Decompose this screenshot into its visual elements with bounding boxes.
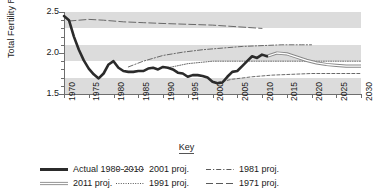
y-tick-label: 2.0 xyxy=(35,48,59,57)
y-axis-title: Total Fertility Rate xyxy=(6,0,20,68)
series-line xyxy=(217,74,361,83)
legend-label: 1991 proj. xyxy=(149,178,189,188)
legend-item[interactable]: Actual 1980-2010 xyxy=(40,164,116,174)
series-line-2011-proj-inner xyxy=(267,53,361,66)
y-tick-label: 1.5 xyxy=(35,89,59,98)
legend-item[interactable]: 1971 proj. xyxy=(206,178,294,188)
legend-label: 1971 proj. xyxy=(239,178,279,188)
legend-item[interactable]: 2011 proj. xyxy=(40,178,116,188)
dashed-swatch xyxy=(116,165,144,174)
legend-item[interactable]: 1981 proj. xyxy=(206,164,294,174)
legend-label: 2011 proj. xyxy=(73,178,112,188)
legend-items: Actual 1980-20102001 proj.1981 proj.2011… xyxy=(40,162,370,190)
key-title-text: Key xyxy=(179,142,195,154)
dotted-swatch xyxy=(116,179,144,188)
legend-item[interactable]: 2001 proj. xyxy=(116,164,206,174)
fertility-rate-chart: Total Fertility Rate 2.52.01.5 197019751… xyxy=(0,0,373,196)
legend-item[interactable]: 1991 proj. xyxy=(116,178,206,188)
series-line xyxy=(64,16,267,83)
y-tick-label: 2.5 xyxy=(35,7,59,16)
series-lines xyxy=(64,12,361,95)
legend-label: 1981 proj. xyxy=(239,164,279,174)
key-title: Key xyxy=(0,142,373,152)
dash-dot-swatch xyxy=(206,165,234,174)
long-dash-swatch xyxy=(206,179,234,188)
series-line xyxy=(128,45,311,67)
series-line-2011-proj-outer xyxy=(267,53,361,66)
x-tick xyxy=(361,94,362,98)
plot-area: 2.52.01.5 197019751980198519901995200020… xyxy=(64,12,361,94)
series-line xyxy=(69,19,262,28)
legend-label: 2001 proj. xyxy=(149,164,189,174)
double-hollow-swatch xyxy=(40,179,68,188)
solid-thick-swatch xyxy=(40,165,68,174)
x-tick-label: 2030 xyxy=(365,82,373,101)
